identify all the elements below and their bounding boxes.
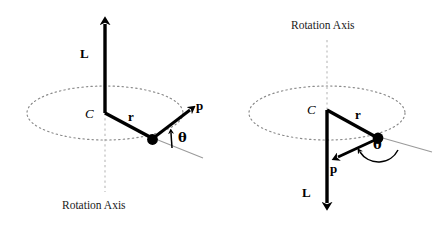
- diagram-left-panel: L C r p θ Rotation Axis: [0, 0, 220, 228]
- label-L-right: L: [302, 186, 311, 199]
- label-rotation-axis-left: Rotation Axis: [62, 200, 126, 212]
- particle-dot: [147, 134, 158, 145]
- diagram-right-svg: [220, 0, 440, 228]
- label-theta-right: θ: [373, 138, 382, 151]
- angle-theta-arc: [171, 133, 172, 148]
- label-theta-left: θ: [178, 131, 187, 144]
- radius-vector-r: [327, 110, 376, 137]
- label-r-right: r: [355, 108, 361, 121]
- label-r-left: r: [128, 110, 134, 123]
- label-L-left: L: [80, 47, 89, 60]
- diagram-right-panel: L C r p θ Rotation Axis: [220, 0, 440, 228]
- label-p-right: p: [330, 162, 337, 175]
- label-C-left: C: [85, 107, 94, 120]
- label-p-left: p: [196, 99, 203, 112]
- diagram-left-svg: [0, 0, 220, 228]
- momentum-vector-p: [338, 139, 377, 157]
- label-rotation-axis-right: Rotation Axis: [291, 20, 355, 32]
- figure-canvas: L C r p θ Rotation Axis: [0, 0, 440, 228]
- label-C-right: C: [307, 103, 316, 116]
